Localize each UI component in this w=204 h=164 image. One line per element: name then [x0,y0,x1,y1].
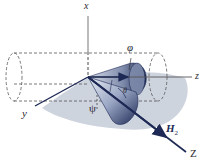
euler-angle-diagram: x z y Z H2 φ θ ψ [0,0,204,164]
Z-axis-label: Z [190,148,197,159]
psi-angle-label: ψ [89,103,96,114]
vector-subscript: 2 [175,129,179,137]
H2-vector-label: H2 [166,123,178,137]
vector-name: H [166,122,175,134]
diagram-canvas [0,0,204,164]
phi-angle-label: φ [127,42,133,53]
y-axis-label: y [22,108,27,119]
z-axis-label: z [195,71,199,81]
theta-angle-label: θ [123,87,127,95]
x-axis-label: x [84,1,88,11]
